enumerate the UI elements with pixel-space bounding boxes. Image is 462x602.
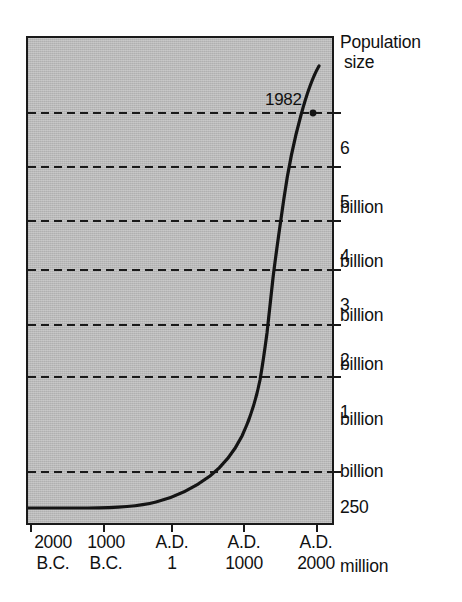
x-tick-line2: 2000 (278, 553, 354, 574)
x-tick-line2: B.C. (68, 553, 144, 574)
y-tick-value: 250 (340, 498, 388, 518)
annotation-1982-label: 1982 (265, 90, 302, 110)
population-curve (28, 38, 332, 523)
x-tick-line1: A.D. (206, 532, 282, 553)
y-axis-title: Population size (340, 32, 421, 72)
x-tick-line2: 1 (134, 553, 210, 574)
data-point-1982-dot (310, 110, 317, 117)
population-curve-path (28, 66, 319, 508)
population-growth-chart: Population size 6 billion 5 billion 4 bi… (0, 0, 462, 602)
x-tick-line2: 1000 (206, 553, 282, 574)
y-axis-title-line1: Population (340, 32, 421, 52)
x-tick-line1: 1000 (68, 532, 144, 553)
y-axis-title-line2: size (340, 52, 421, 72)
x-tick-line1: A.D. (134, 532, 210, 553)
x-tick-label-ad-1000: A.D. 1000 (206, 532, 282, 574)
x-tick-label-ad-1: A.D. 1 (134, 532, 210, 574)
x-tick-label-ad-2000: A.D. 2000 (278, 532, 354, 574)
x-tick-line1: A.D. (278, 532, 354, 553)
x-tick-label-1000-bc: 1000 B.C. (68, 532, 144, 574)
y-tick-value: 1 (340, 403, 383, 423)
y-tick-label-250-million: 250 million (340, 459, 388, 602)
